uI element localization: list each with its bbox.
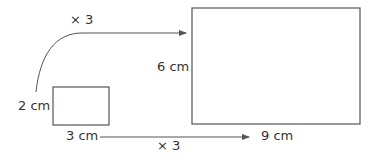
scale-factor-diagram: × 3 × 3 2 cm 3 cm 6 cm 9 cm (0, 0, 377, 160)
large-rectangle (192, 8, 360, 124)
bottom-scale-factor-label: × 3 (157, 138, 180, 153)
small-width-label: 3 cm (66, 128, 98, 143)
top-scale-factor-label: × 3 (70, 12, 93, 27)
large-height-label: 6 cm (157, 59, 189, 74)
small-rectangle (53, 87, 109, 125)
large-width-label: 9 cm (261, 128, 293, 143)
diagram-graphics (0, 0, 377, 160)
small-height-label: 2 cm (18, 98, 50, 113)
